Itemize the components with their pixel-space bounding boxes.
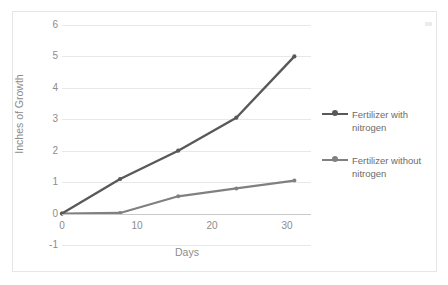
legend-marker-icon: [332, 110, 338, 116]
chart-container: 6 5 4 3 2 1 0 -1 0 10 20 30 Inches of Gr…: [0, 0, 448, 285]
legend-label-with-nitrogen: Fertilizer with nitrogen: [352, 108, 440, 134]
legend-marker-icon: [332, 156, 338, 162]
legend-entry-with-nitrogen[interactable]: Fertilizer with nitrogen: [322, 108, 440, 134]
legend-entry-without-nitrogen[interactable]: Fertilizer without nitrogen: [322, 154, 440, 180]
legend-label-without-nitrogen: Fertilizer without nitrogen: [352, 154, 440, 180]
corner-mark: [425, 22, 432, 26]
legend: Fertilizer with nitrogen Fertilizer with…: [322, 108, 440, 200]
